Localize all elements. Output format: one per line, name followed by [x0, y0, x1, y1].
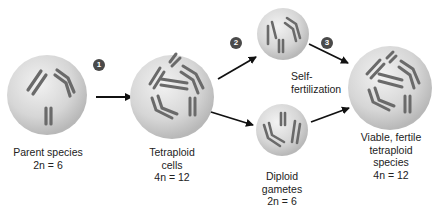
step-badge-1: 1	[93, 59, 105, 71]
tetraploid-cell	[130, 54, 214, 139]
speciation-diagram: 1 2 3 Parent species 2n = 6 Tetraploid c…	[0, 0, 437, 214]
arrow-2	[218, 57, 256, 79]
self-fertilization-label: Self- fertilization	[291, 70, 341, 95]
diagram-graphics	[0, 0, 437, 214]
tetraploid-cells-label: Tetraploid cells 4n = 12	[132, 146, 212, 184]
final-species-label: Viable, fertile tetraploid species 4n = …	[350, 131, 432, 181]
arrow-to-final	[311, 108, 349, 122]
step-badge-2: 2	[230, 37, 242, 49]
self-fertilization-cell	[257, 8, 309, 60]
arrow-to-gametes	[211, 112, 253, 125]
step-badge-3: 3	[321, 37, 333, 49]
final-species-cell	[348, 46, 432, 130]
diploid-gametes-cell	[256, 104, 308, 156]
parent-species-label: Parent species 2n = 6	[2, 146, 94, 171]
diploid-gametes-label: Diploid gametes 2n = 6	[250, 170, 314, 208]
parent-cell	[7, 55, 87, 135]
